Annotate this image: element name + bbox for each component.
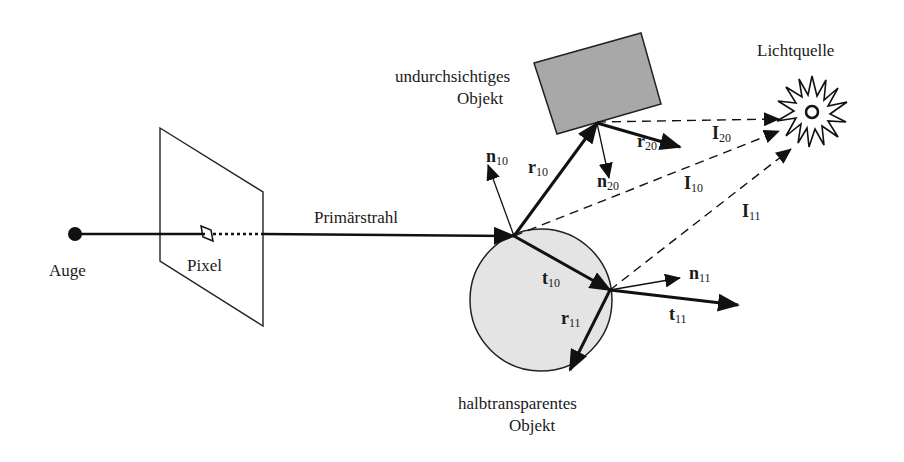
label-r10: r10	[528, 157, 548, 179]
opaque-object-label-line1: undurchsichtiges	[395, 67, 510, 86]
light-source-star-icon	[777, 76, 847, 147]
n10-arrow	[488, 165, 514, 236]
label-I11: I11	[742, 201, 761, 223]
n11-arrow	[610, 278, 680, 290]
image-plane	[160, 128, 263, 326]
label-n11: n11	[689, 263, 711, 285]
primary-ray-arrow	[263, 234, 514, 236]
pixel-label: Pixel	[187, 256, 222, 275]
transparent-object-label-line2: Objekt	[509, 416, 556, 435]
r10-arrow	[514, 123, 597, 236]
primary-ray-label: Primärstrahl	[314, 208, 398, 227]
label-t11: t11	[669, 304, 687, 326]
light-source-label: Lichtquelle	[757, 41, 834, 60]
t11-arrow	[610, 290, 738, 305]
opaque-object-box	[534, 33, 661, 134]
I11-shadow-ray	[610, 149, 791, 290]
raytracing-diagram: Auge Pixel Primärstrahl undurchsichtiges…	[0, 0, 904, 462]
pixel-square	[201, 226, 213, 241]
label-I20: I20	[712, 123, 731, 145]
opaque-object-label-line2: Objekt	[457, 89, 504, 108]
eye-label: Auge	[49, 261, 86, 280]
label-I10: I10	[684, 173, 703, 195]
label-r20: r20	[637, 131, 657, 153]
I20-shadow-ray	[597, 119, 779, 122]
transparent-object-label-line1: halbtransparentes	[458, 394, 577, 413]
n20-arrow	[597, 123, 609, 178]
label-n10: n10	[486, 146, 508, 168]
